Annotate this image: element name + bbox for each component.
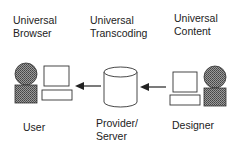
label-provider-server: Provider/ Server xyxy=(96,117,138,142)
designer-computer-icon xyxy=(170,72,200,105)
database-cylinder-icon xyxy=(104,67,137,107)
user-computer-icon xyxy=(42,66,72,100)
label-user: User xyxy=(23,121,45,134)
user-person-icon xyxy=(15,63,37,103)
designer-person-icon xyxy=(204,66,226,106)
label-designer: Designer xyxy=(172,119,214,132)
arrow-left-icon xyxy=(75,82,101,90)
arrow-left-icon xyxy=(140,83,166,91)
